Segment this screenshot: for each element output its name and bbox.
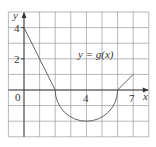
- y-axis-arrow-icon: [22, 12, 27, 18]
- y-tick-label-4: 4: [14, 22, 20, 34]
- x-tick-label-4: 4: [83, 92, 89, 104]
- function-label: y = g(x): [77, 48, 114, 61]
- grid: [8, 12, 148, 137]
- function-graph: y x 0 4 7 4 2 y = g(x): [0, 0, 156, 147]
- y-axis-label: y: [12, 9, 18, 21]
- y-tick-label-2: 2: [14, 53, 20, 65]
- origin-label: 0: [15, 91, 21, 103]
- x-axis-label: x: [142, 90, 148, 102]
- x-tick-label-7: 7: [129, 92, 135, 104]
